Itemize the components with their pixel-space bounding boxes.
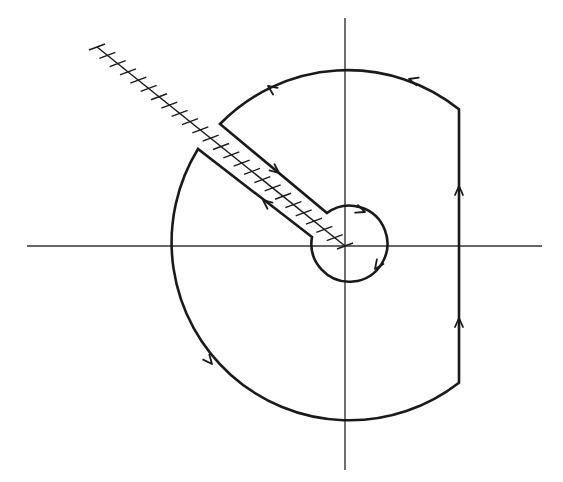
branch-cut-tick [316, 226, 332, 232]
branch-cut-tick [141, 85, 157, 91]
branch-cut-tick [223, 152, 239, 158]
branch-cut-tick [306, 218, 322, 224]
branch-cut-tick [234, 160, 250, 166]
branch-cut-tick [265, 185, 281, 191]
contour-diagram [0, 0, 563, 482]
branch-cut-tick [130, 77, 146, 83]
branch-cut-tick [213, 144, 229, 150]
branch-cut-tick [285, 202, 301, 208]
branch-cut-tick [327, 235, 343, 241]
branch-cut-tick [244, 168, 260, 174]
branch-cut-tick [275, 193, 291, 199]
contour-path [172, 70, 459, 420]
branch-cut-tick [203, 135, 219, 141]
branch-cut [89, 44, 353, 249]
branch-cut-tick [172, 110, 188, 116]
branch-cut-tick [120, 69, 136, 75]
branch-cut-tick [99, 52, 115, 58]
branch-cut-tick [296, 210, 312, 216]
coordinate-axes [27, 18, 542, 470]
branch-cut-tick [161, 102, 177, 108]
keyhole-contour [172, 70, 459, 420]
branch-cut-tick [254, 177, 270, 183]
branch-cut-tick [192, 127, 208, 133]
branch-cut-tick [89, 44, 105, 50]
branch-cut-tick [151, 94, 167, 100]
branch-cut-tick [182, 119, 198, 125]
direction-arrows [203, 75, 463, 366]
branch-cut-tick [110, 61, 126, 67]
